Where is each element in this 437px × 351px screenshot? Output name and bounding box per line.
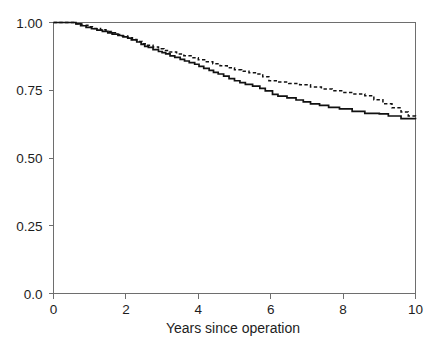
x-tick-label-8: 8 bbox=[339, 302, 347, 317]
x-tick-label-10: 10 bbox=[408, 302, 423, 317]
y-tick-label-0-5: 0.50 bbox=[16, 151, 42, 166]
y-tick-label-0: 0.0 bbox=[24, 287, 43, 302]
x-tick-label-4: 4 bbox=[195, 302, 203, 317]
y-tick-label-0-25: 0.25 bbox=[16, 219, 42, 234]
survival-curve-figure: 02468100.00.250.500.751.00 Years since o… bbox=[0, 0, 437, 351]
y-tick-label-1: 1.00 bbox=[16, 16, 42, 31]
data-curves bbox=[54, 23, 416, 120]
plot-canvas: 02468100.00.250.500.751.00 Years since o… bbox=[0, 0, 437, 351]
x-tick-label-2: 2 bbox=[122, 302, 130, 317]
tick-marks bbox=[49, 23, 416, 299]
x-tick-label-0: 0 bbox=[50, 302, 58, 317]
x-axis-title: Years since operation bbox=[166, 320, 300, 336]
curve-dashed-curve bbox=[54, 23, 416, 119]
curve-solid-curve bbox=[54, 23, 416, 120]
tick-labels: 02468100.00.250.500.751.00 bbox=[16, 16, 423, 317]
y-tick-label-0-75: 0.75 bbox=[16, 83, 42, 98]
x-tick-label-6: 6 bbox=[267, 302, 275, 317]
axes-frame bbox=[54, 23, 416, 294]
